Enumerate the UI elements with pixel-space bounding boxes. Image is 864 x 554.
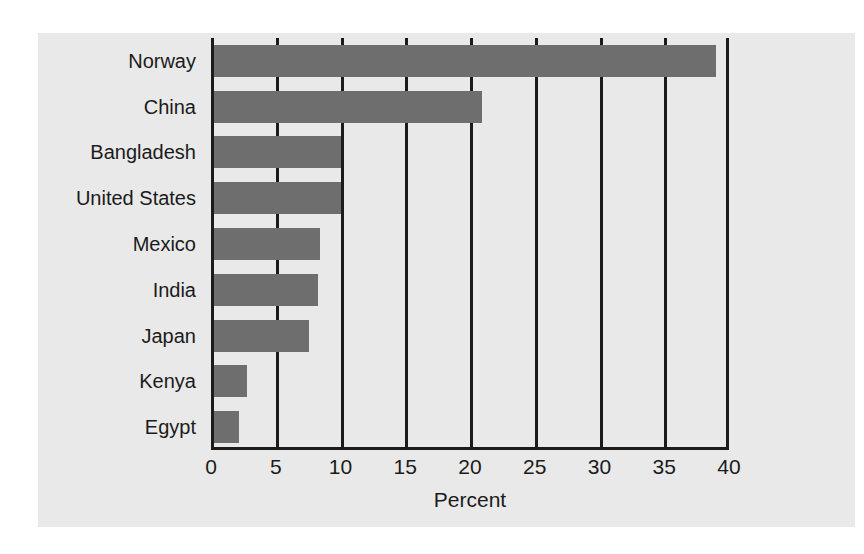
bar-row	[211, 320, 729, 352]
bar-row	[211, 45, 729, 77]
bar-row	[211, 411, 729, 443]
bar	[211, 45, 716, 77]
x-axis-tick-labels: 0510152025303540	[211, 455, 729, 485]
x-axis-title: Percent	[211, 488, 729, 512]
bar	[211, 411, 239, 443]
category-label: Norway	[128, 45, 196, 77]
bar	[211, 91, 482, 123]
bar-row	[211, 136, 729, 168]
bar	[211, 320, 309, 352]
x-tick-label: 20	[458, 455, 481, 479]
x-tick-label: 0	[205, 455, 217, 479]
category-axis-labels: NorwayChinaBangladeshUnited StatesMexico…	[38, 38, 204, 450]
x-tick-label: 30	[588, 455, 611, 479]
category-label: India	[153, 274, 196, 306]
bar	[211, 136, 341, 168]
bar-row	[211, 228, 729, 260]
category-label: Mexico	[133, 228, 196, 260]
bar	[211, 182, 341, 214]
category-label: China	[144, 91, 196, 123]
bar-row	[211, 91, 729, 123]
x-tick-label: 40	[717, 455, 740, 479]
bar	[211, 228, 320, 260]
bar-row	[211, 365, 729, 397]
x-tick-label: 10	[329, 455, 352, 479]
bar-row	[211, 274, 729, 306]
category-label: Kenya	[139, 365, 196, 397]
category-label: Japan	[142, 320, 197, 352]
plot-area	[211, 38, 729, 450]
category-label: Bangladesh	[90, 136, 196, 168]
x-tick-label: 5	[270, 455, 282, 479]
x-tick-label: 15	[394, 455, 417, 479]
x-tick-label: 25	[523, 455, 546, 479]
x-tick-label: 35	[653, 455, 676, 479]
category-label: Egypt	[145, 411, 196, 443]
bar-row	[211, 182, 729, 214]
category-label: United States	[76, 182, 196, 214]
bar-chart-figure: NorwayChinaBangladeshUnited StatesMexico…	[0, 0, 864, 554]
bar	[211, 274, 318, 306]
bar	[211, 365, 247, 397]
